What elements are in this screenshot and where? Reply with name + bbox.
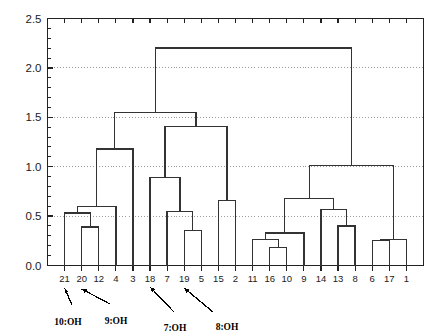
y-axis-ticks: 0.00.51.01.52.02.5	[26, 13, 53, 272]
leaf-label-6: 6	[370, 273, 375, 284]
leaf-label-3: 3	[130, 273, 135, 284]
leaf-label-7: 7	[164, 273, 169, 284]
leaf-label-11: 11	[248, 273, 258, 284]
dendrogram-link-m14	[338, 226, 355, 266]
y-tick-label-1.5: 1.5	[26, 111, 42, 123]
leaf-label-1: 1	[404, 273, 409, 284]
leaf-label-20: 20	[76, 273, 87, 284]
y-tick-label-0.0: 0.0	[26, 260, 42, 272]
leaf-label-14: 14	[316, 273, 327, 284]
dendrogram-link-m2	[65, 213, 91, 265]
dendrogram-link-m5	[184, 230, 201, 265]
dendrogram-links	[65, 48, 407, 265]
leaf-label-18: 18	[145, 273, 156, 284]
dendrogram-link-m18	[381, 239, 407, 265]
dendrogram-link-m11	[270, 247, 287, 265]
y-tick-label-2.5: 2.5	[26, 13, 42, 25]
dendrogram-link-m17	[372, 240, 389, 265]
leaf-label-10: 10	[281, 273, 292, 284]
dendrogram-plot: 0.00.51.01.52.02.5 212012431871951521116…	[0, 0, 438, 336]
dendrogram-link-m1	[82, 227, 99, 266]
leaf-label-16: 16	[264, 273, 275, 284]
leaf-label-12: 12	[93, 273, 104, 284]
leaf-labels-group: 212012431871951521116109141386171	[59, 273, 409, 284]
dendrogram-link-m10	[115, 112, 196, 149]
dendrogram-link-m19	[309, 166, 393, 240]
leaf-label-4: 4	[113, 273, 118, 284]
leaf-label-17: 17	[384, 273, 395, 284]
y-tick-label-0.5: 0.5	[26, 210, 42, 222]
annotation-arrow-7-OH	[150, 287, 174, 312]
dendrogram-link-m13	[265, 233, 303, 266]
leaf-label-9: 9	[301, 273, 306, 284]
y-tick-label-1.0: 1.0	[26, 161, 42, 173]
annotation-label-8-OH: 8:OH	[216, 322, 239, 332]
leaf-label-21: 21	[59, 273, 70, 284]
dendrogram-link-m20	[155, 48, 351, 166]
dendrogram-link-m7	[150, 178, 180, 266]
dendrogram-link-m3	[77, 206, 115, 265]
annotations-group: 10:OH9:OH7:OH8:OH	[54, 287, 239, 333]
dendrogram-link-m9	[165, 126, 227, 201]
leaf-label-13: 13	[333, 273, 344, 284]
dendrogram-link-m15	[321, 209, 347, 265]
dendrogram-link-m8	[218, 201, 235, 266]
leaf-label-19: 19	[179, 273, 190, 284]
annotation-label-7-OH: 7:OH	[164, 323, 187, 333]
dendrogram-figure: 0.00.51.01.52.02.5 212012431871951521116…	[0, 0, 438, 336]
leaf-label-2: 2	[233, 273, 238, 284]
annotation-arrow-8-OH	[184, 288, 213, 312]
gridlines-group	[48, 68, 424, 216]
annotation-label-10-OH: 10:OH	[54, 317, 82, 327]
leaf-label-15: 15	[213, 273, 224, 284]
annotation-label-9-OH: 9:OH	[105, 316, 128, 326]
dendrogram-link-m6	[167, 211, 193, 265]
y-tick-label-2.0: 2.0	[26, 62, 42, 74]
leaf-label-5: 5	[199, 273, 204, 284]
dendrogram-link-m12	[253, 240, 279, 266]
leaf-label-8: 8	[352, 273, 357, 284]
